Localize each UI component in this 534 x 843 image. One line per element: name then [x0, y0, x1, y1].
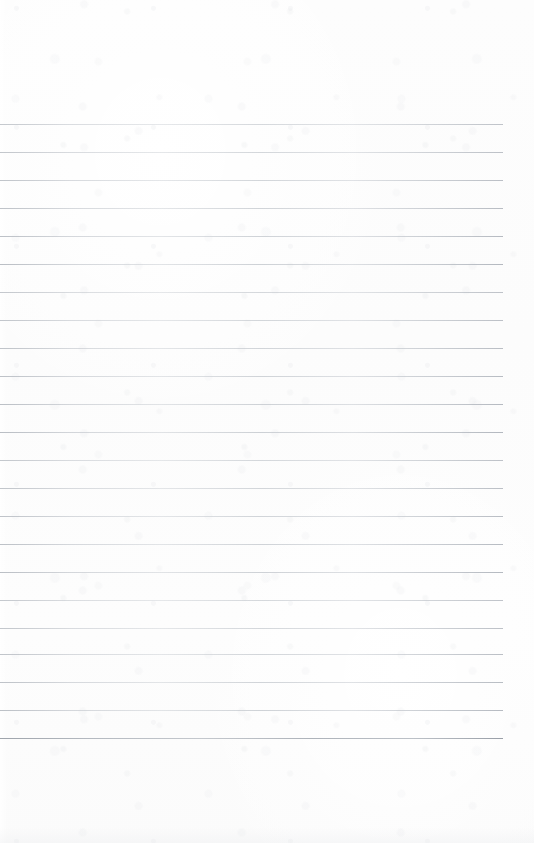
paper-background: [0, 0, 534, 843]
notebook-page: [0, 0, 534, 843]
